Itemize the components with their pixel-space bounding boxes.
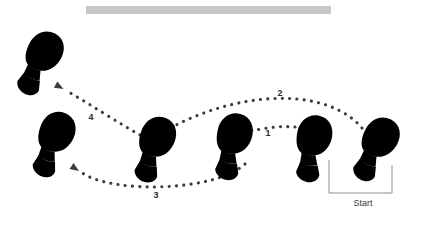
step-label-1: 1 <box>265 128 270 138</box>
start-label: Start <box>353 198 373 208</box>
step-label-4: 4 <box>88 112 93 122</box>
step-label-2: 2 <box>277 88 282 98</box>
top-gray-bar <box>86 6 331 14</box>
footwork-diagram: Start <box>0 0 424 227</box>
step-label-3: 3 <box>153 190 158 200</box>
diagram-canvas: Start <box>0 0 424 227</box>
